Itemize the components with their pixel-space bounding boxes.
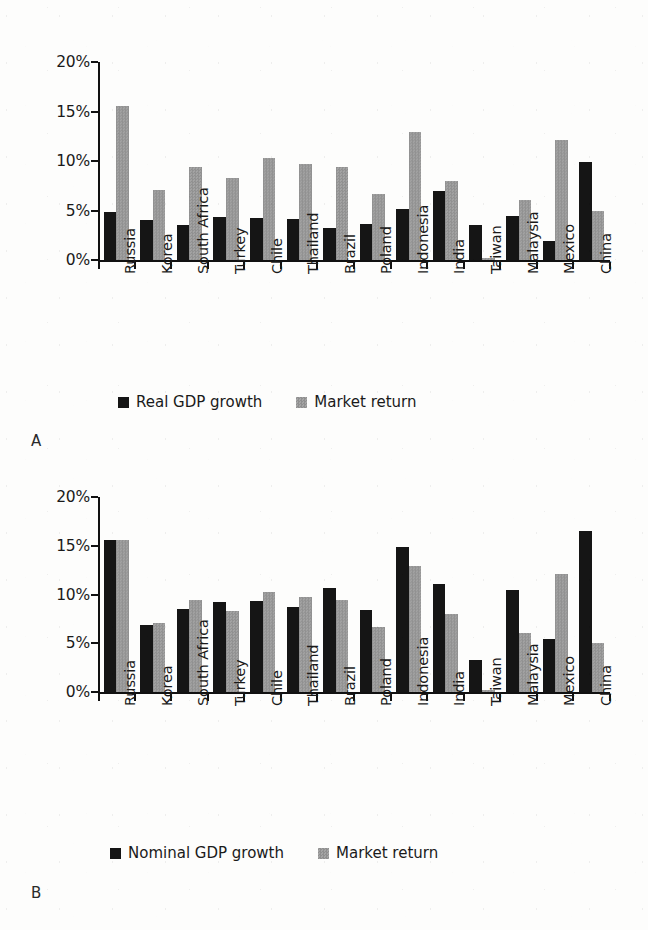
x-axis-category-label: Brazil [342,234,358,274]
x-axis-category-label: Indonesia [415,637,431,706]
chart-panel-b: 0%5%10%15%20% RussiaKoreaSouth AfricaTur… [0,460,648,930]
x-axis-category-label: Korea [159,665,175,706]
x-axis-category-label: India [451,671,467,706]
bar [396,547,409,692]
x-axis-category-label: South Africa [195,187,211,274]
x-axis-category-label: Thailand [305,645,321,706]
x-axis-category-label: Mexico [561,224,577,274]
bar [506,216,519,260]
bar [250,218,263,260]
x-axis-tick [98,694,100,701]
x-axis-category-label: Chile [269,238,285,274]
legend-swatch-icon [318,848,329,859]
panel-letter-b: B [31,884,41,902]
legend-label: Market return [336,844,438,862]
bar [579,162,592,260]
y-tick-label: 5% [42,634,90,652]
y-tick-label: 5% [42,202,90,220]
chart-panel-a: 0%5%10%15%20% RussiaKoreaSouth AfricaTur… [0,0,648,470]
x-axis-category-label: Indonesia [415,205,431,274]
legend-label: Market return [314,393,416,411]
x-axis-category-label: Malaysia [525,643,541,706]
x-axis-category-label: Russia [122,228,138,274]
y-axis-tick [91,160,98,162]
legend-a: Real GDP growth Market return [118,393,417,411]
bar [140,625,153,692]
y-axis-line [98,62,100,261]
y-axis-tick [91,496,98,498]
legend-b: Nominal GDP growth Market return [110,844,438,862]
bar [213,217,226,260]
legend-label: Nominal GDP growth [128,844,284,862]
y-axis-tick [91,545,98,547]
bar [360,224,373,260]
figure-page: 0%5%10%15%20% RussiaKoreaSouth AfricaTur… [0,0,648,930]
y-axis-tick [91,691,98,693]
bar [579,531,592,692]
y-tick-label: 20% [42,488,90,506]
x-axis-category-label: Taiwan [488,657,504,706]
y-axis-tick [91,61,98,63]
bar [177,609,190,692]
x-axis-category-label: Taiwan [488,225,504,274]
legend-swatch-icon [296,397,307,408]
x-axis-category-label: Brazil [342,666,358,706]
y-axis-tick [91,111,98,113]
bar [213,602,226,692]
x-axis-category-label: Korea [159,233,175,274]
bar [140,220,153,260]
panel-letter-a: A [31,432,41,450]
legend-item-a-1: Market return [296,393,416,411]
x-axis-category-label: China [598,233,614,274]
x-axis-category-label: South Africa [195,619,211,706]
bar [433,191,446,260]
legend-item-a-0: Real GDP growth [118,393,262,411]
bar [506,590,519,692]
x-axis-category-label: Russia [122,660,138,706]
bar [323,228,336,260]
bar [287,219,300,260]
y-tick-label: 15% [42,103,90,121]
legend-swatch-icon [118,397,129,408]
y-tick-label: 15% [42,537,90,555]
x-axis-category-label: India [451,239,467,274]
x-axis-tick [98,262,100,269]
y-axis-tick [91,594,98,596]
bar [469,660,482,692]
bar [104,540,117,692]
y-tick-label: 10% [42,586,90,604]
legend-label: Real GDP growth [136,393,262,411]
x-axis-category-label: China [598,665,614,706]
x-axis-category-label: Turkey [232,659,248,706]
bar [396,209,409,260]
x-axis-category-label: Mexico [561,656,577,706]
y-tick-label: 20% [42,53,90,71]
x-axis-category-label: Poland [378,226,394,274]
bar [250,601,263,692]
y-axis-tick [91,210,98,212]
bar [287,607,300,692]
y-tick-label: 10% [42,152,90,170]
bar [177,225,190,260]
bar [104,212,117,260]
bar [360,610,373,692]
y-tick-label: 0% [42,251,90,269]
bar [433,584,446,692]
y-tick-label: 0% [42,683,90,701]
x-axis-category-label: Chile [269,670,285,706]
x-axis-category-label: Malaysia [525,211,541,274]
legend-item-b-0: Nominal GDP growth [110,844,284,862]
x-axis-category-label: Turkey [232,227,248,274]
x-axis-category-label: Poland [378,658,394,706]
y-axis-tick [91,642,98,644]
bar [543,639,556,692]
y-axis-tick [91,259,98,261]
bar [469,225,482,260]
legend-item-b-1: Market return [318,844,438,862]
y-axis-line [98,497,100,693]
bar [323,588,336,692]
legend-swatch-icon [110,848,121,859]
x-axis-category-label: Thailand [305,213,321,274]
bar [543,241,556,260]
